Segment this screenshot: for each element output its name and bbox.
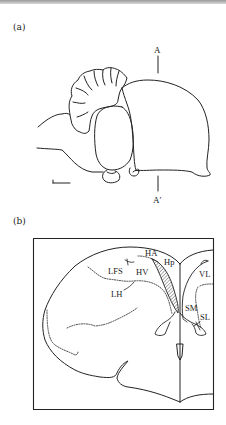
brainstem-ventral-outline (37, 148, 103, 172)
region-label-hp: Hp (164, 257, 174, 267)
right-hemisphere-outline-top (180, 250, 213, 264)
section-mark-a: A (154, 45, 161, 55)
brainstem-dorsal-outline (38, 113, 70, 127)
telencephalon-outline (122, 80, 210, 176)
pituitary-outline (103, 170, 120, 183)
lateral-lamina (47, 310, 78, 355)
region-label-hv: HV (136, 267, 149, 277)
region-label-sl: SL (200, 312, 210, 322)
region-label-vl: VL (199, 269, 210, 279)
cerebellum-folium (73, 102, 85, 103)
figure-canvas: A A′ (0, 0, 226, 425)
cerebellum-outline (69, 68, 127, 134)
right-hemisphere-outline-bottom (180, 394, 213, 402)
region-label-ha: HA (145, 248, 158, 258)
optic-chiasm-outline (129, 168, 139, 176)
optic-chiasm-detail (133, 170, 139, 172)
region-label-sm: SM (185, 303, 198, 313)
section-frame (34, 239, 214, 410)
lateral-ventricle-left (155, 312, 175, 336)
section-mark-a-prime: A′ (153, 195, 161, 205)
cerebellum-folium (103, 70, 105, 85)
cerebellum-folium (77, 112, 88, 117)
right-dotted-line-top (200, 284, 213, 286)
optic-tectum-outline (95, 106, 134, 170)
cerebellum-folium (116, 71, 119, 86)
cerebellum-folium (94, 71, 98, 86)
lamina-medullaris (67, 308, 137, 328)
region-label-lh: LH (111, 289, 122, 299)
cerebellum-folium (84, 76, 92, 90)
lfs-leader (125, 260, 134, 262)
coronal-section-view (34, 239, 214, 410)
hippocampus-hatched-region (152, 259, 178, 313)
lateral-brain-view (37, 56, 210, 191)
region-label-lfs: LFS (108, 266, 123, 276)
cerebellum-folium (111, 68, 112, 83)
lh-leader (124, 282, 134, 290)
pituitary-detail (107, 172, 116, 174)
cerebellum-folium (76, 88, 88, 95)
